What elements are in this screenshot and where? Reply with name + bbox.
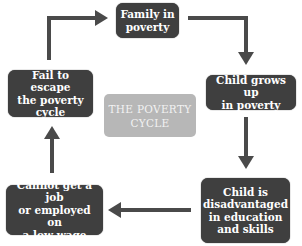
node-label: Family in poverty <box>120 8 174 33</box>
node-label: Cannot get a job or employed on a low wa… <box>10 179 99 242</box>
arrowhead-right-icon <box>95 10 108 26</box>
node-cannot-get-job: Cannot get a job or employed on a low wa… <box>6 185 103 235</box>
node-label: Fail to escape the poverty cycle <box>12 69 89 119</box>
node-family-in-poverty: Family in poverty <box>116 3 179 38</box>
node-label: Child is disadvantaged in education and … <box>203 186 288 236</box>
arrow-fail-to-family <box>49 18 97 60</box>
arrowhead-left-icon <box>108 202 121 218</box>
arrowhead-down-icon <box>238 156 254 169</box>
arrowhead-up-icon <box>44 126 60 139</box>
arrowhead-down-icon <box>238 52 254 65</box>
arrow-family-to-grows <box>188 18 246 54</box>
node-child-grows-up: Child grows up in poverty <box>206 75 296 110</box>
node-child-disadvantaged: Child is disadvantaged in education and … <box>201 178 290 243</box>
node-fail-to-escape: Fail to escape the poverty cycle <box>8 70 93 117</box>
diagram-title: THE POVERTY CYCLE <box>104 94 196 137</box>
node-label: Child grows up in poverty <box>210 74 292 112</box>
diagram-title-text: THE POVERTY CYCLE <box>109 102 192 130</box>
